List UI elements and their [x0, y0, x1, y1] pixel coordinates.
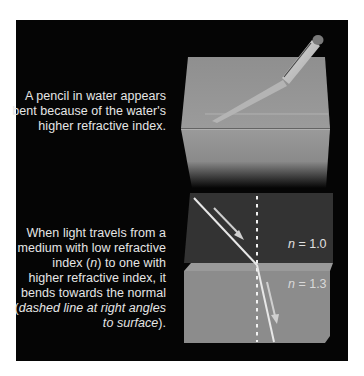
caption-line: to surface).	[4, 316, 166, 331]
refraction-diagram	[184, 193, 333, 343]
water-tank	[181, 57, 330, 188]
air-medium	[184, 193, 333, 263]
label-air-index: n = 1.0	[288, 237, 327, 251]
caption-line: higher refractive index, it	[4, 271, 166, 286]
n-symbol: n	[288, 277, 295, 291]
caption-line: A pencil in water appears	[4, 89, 166, 104]
caption-line: index (n) to one with	[4, 256, 166, 271]
caption-italic: to surface	[103, 316, 158, 330]
caption-line: higher refractive index.	[4, 119, 166, 134]
caption-line: When light travels from a	[4, 226, 166, 241]
caption-text: ) to one with	[97, 256, 166, 270]
air-index-value: = 1.0	[295, 237, 327, 251]
caption-italic: dashed line at right angles	[19, 301, 166, 315]
label-water-index: n = 1.3	[288, 277, 327, 291]
caption-line: medium with low refractive	[4, 241, 166, 256]
caption-pencil: A pencil in water appears bent because o…	[4, 89, 166, 134]
water-index-value: = 1.3	[295, 277, 327, 291]
pencil-eraser	[313, 35, 324, 45]
caption-refraction: When light travels from a medium with lo…	[4, 226, 166, 331]
tank-front-face	[181, 129, 330, 188]
caption-text: ).	[158, 316, 166, 330]
n-symbol: n	[288, 237, 295, 251]
tank-back-face	[181, 57, 330, 128]
caption-line: bent because of the water's	[4, 104, 166, 119]
caption-text: index (	[52, 256, 90, 270]
caption-line: (dashed line at right angles	[4, 301, 166, 316]
caption-line: bends towards the normal	[4, 286, 166, 301]
